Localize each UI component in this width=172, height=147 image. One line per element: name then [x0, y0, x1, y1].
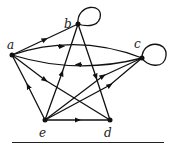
label-e: e	[39, 126, 46, 140]
node-d	[108, 118, 113, 123]
edge-b-d	[78, 24, 110, 120]
edge-e-a	[12, 55, 45, 120]
label-b: b	[64, 17, 72, 31]
directed-graph: a b c d e	[0, 0, 172, 147]
label-a: a	[7, 38, 14, 52]
node-e	[43, 118, 48, 123]
loop-c	[142, 44, 166, 65]
node-a	[10, 53, 15, 58]
edge-c-a	[12, 55, 142, 66]
bottom-rule	[12, 142, 164, 143]
label-c: c	[134, 37, 141, 51]
node-c	[140, 56, 145, 61]
node-b	[76, 22, 81, 27]
edge-a-c	[12, 45, 142, 58]
loop-b	[78, 7, 100, 25]
label-d: d	[104, 126, 112, 140]
